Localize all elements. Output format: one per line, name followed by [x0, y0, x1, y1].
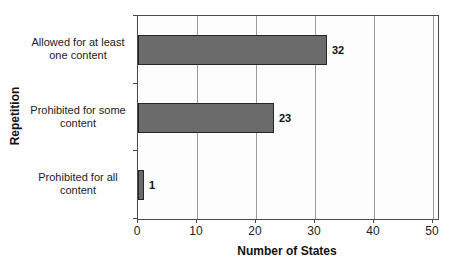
y-tick-mark-1 [133, 83, 137, 84]
y-axis-title: Repetition [8, 87, 22, 146]
category-label-0: Allowed for at least one content [24, 36, 132, 62]
x-tick-mark-20 [255, 219, 256, 223]
y-tick-mark-2 [133, 150, 137, 151]
x-tick-label-0: 0 [134, 224, 141, 238]
bar-value-label-2: 1 [149, 179, 155, 191]
category-axis-labels: Allowed for at least one contentProhibit… [24, 15, 132, 218]
horizontal-bar-chart: Repetition 32231 Allowed for at least on… [0, 0, 457, 276]
y-tick-mark-3 [133, 218, 137, 219]
gridline-40 [374, 16, 375, 219]
bar-value-label-0: 32 [332, 44, 344, 56]
bar-0 [138, 35, 327, 65]
plot-area: 32231 [137, 15, 439, 220]
x-tick-mark-30 [314, 219, 315, 223]
x-tick-label-40: 40 [366, 224, 379, 238]
x-tick-label-20: 20 [248, 224, 261, 238]
x-tick-label-10: 10 [189, 224, 202, 238]
x-tick-mark-50 [432, 219, 433, 223]
category-label-2: Prohibited for all content [24, 171, 132, 197]
x-tick-mark-0 [137, 219, 138, 223]
bar-value-label-1: 23 [279, 112, 291, 124]
x-tick-mark-10 [196, 219, 197, 223]
x-tick-label-30: 30 [307, 224, 320, 238]
x-tick-mark-40 [373, 219, 374, 223]
gridline-50 [433, 16, 434, 219]
x-tick-label-50: 50 [425, 224, 438, 238]
y-tick-mark-0 [133, 15, 137, 16]
x-axis-title: Number of States [237, 244, 336, 258]
category-label-1: Prohibited for some content [24, 104, 132, 130]
bar-2 [138, 170, 144, 200]
bar-1 [138, 103, 274, 133]
